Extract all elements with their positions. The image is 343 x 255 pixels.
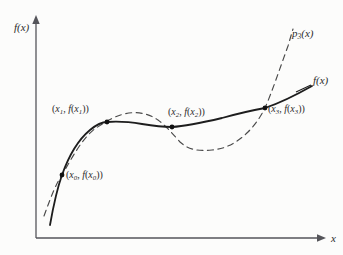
figure-canvas: f(x) x p3(x) f(x) (x0, f(x0)) (x1, f(x1)… [0,0,343,255]
point-label-x0: (x0, f(x0)) [66,170,103,181]
curve-label-p3-tail: (x) [301,27,313,39]
data-point-x1 [105,120,110,125]
x-axis-arrowhead [317,234,326,241]
curve-p3 [44,29,293,216]
y-axis-label: f(x) [14,22,29,33]
y-axis-arrowhead [32,15,39,24]
point-label-x2: (x2, f(x2)) [168,107,205,118]
point-label-x1: (x1, f(x1)) [52,104,89,115]
data-point-x3 [263,106,268,111]
x-axis-label: x [331,233,336,244]
curve-label-f: f(x) [313,75,328,86]
point-label-x3: (x3, f(x3)) [268,104,305,115]
data-point-x2 [170,125,175,130]
data-point-x0 [60,173,65,178]
curve-label-p3: p3(x) [292,28,313,40]
